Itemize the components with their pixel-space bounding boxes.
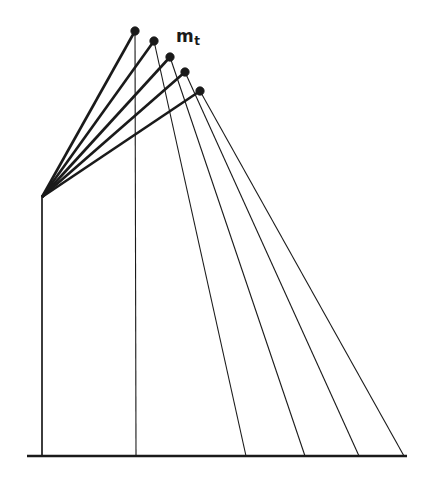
beams-group <box>42 31 200 197</box>
dropline-2-line <box>154 41 246 456</box>
tip-mass-label-subscript: t <box>194 34 200 48</box>
tip-mass-label: mt <box>176 28 200 47</box>
mass-3-dot <box>166 53 174 61</box>
mass-1-dot <box>131 27 139 35</box>
beam-4-line <box>42 72 185 197</box>
dropline-5-line <box>200 91 404 456</box>
beam-1-line <box>42 31 135 197</box>
beam-3-line <box>42 57 170 197</box>
droplines-group <box>42 31 404 456</box>
mass-2-dot <box>150 37 158 45</box>
mass-4-dot <box>181 68 189 76</box>
dropline-4-line <box>185 72 359 456</box>
mass-5-dot <box>196 87 204 95</box>
figure-canvas: mt <box>0 0 423 481</box>
dropline-3-line <box>170 57 305 456</box>
beam-2-line <box>42 41 154 197</box>
tip-mass-label-base: m <box>176 26 194 46</box>
beam-diagram-svg <box>0 0 423 481</box>
